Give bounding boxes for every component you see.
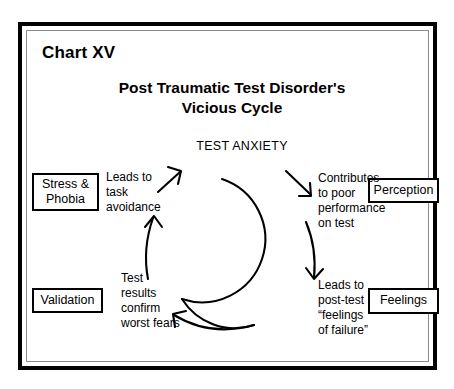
- cycle-ring-arc: [182, 179, 265, 302]
- chart-figure: Chart XV Post Traumatic Test Disorder's …: [0, 0, 454, 389]
- arrow-to-perception: [286, 171, 311, 196]
- arrow-to-stress: [145, 216, 162, 279]
- figure-border: Chart XV Post Traumatic Test Disorder's …: [18, 22, 437, 370]
- stage-box-stress-phobia: Stress & Phobia: [32, 173, 99, 211]
- cycle-hub-label: TEST ANXIETY: [172, 139, 312, 153]
- stage-annotation-task-avoidance: Leads to task avoidance: [106, 170, 176, 215]
- stage-box-validation: Validation: [32, 288, 103, 313]
- stage-annotation-poor-performance: Contributes to poor performance on test: [318, 171, 396, 231]
- stage-annotation-feelings-of-failure: Leads to post-test “feelings of failure”: [318, 278, 396, 338]
- stage-annotation-confirm-worst-fears: Test results confirm worst fears: [121, 271, 193, 331]
